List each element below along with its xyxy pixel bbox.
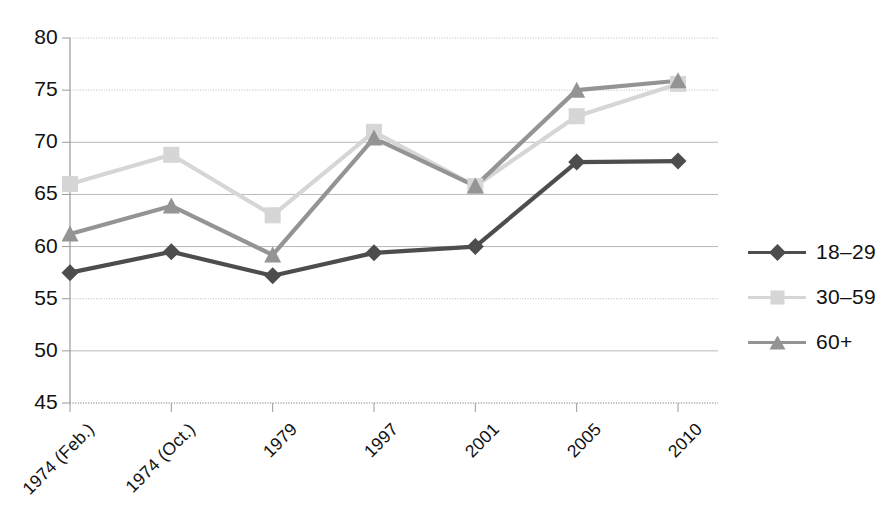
series-markers bbox=[62, 72, 687, 284]
diamond-marker-icon bbox=[769, 244, 786, 261]
data-point-marker bbox=[569, 108, 585, 124]
gridlines bbox=[70, 38, 718, 403]
square-marker-icon bbox=[769, 289, 786, 306]
y-tick-label: 55 bbox=[12, 286, 58, 310]
y-tick-label: 75 bbox=[12, 77, 58, 101]
data-point-marker bbox=[62, 176, 78, 192]
y-tick-label: 45 bbox=[12, 390, 58, 414]
triangle-marker-icon bbox=[769, 334, 786, 351]
y-tick-label: 80 bbox=[12, 25, 58, 49]
legend-key-60-plus bbox=[748, 331, 806, 353]
data-point-marker bbox=[163, 243, 180, 260]
legend-key-30-59 bbox=[748, 286, 806, 308]
y-tick-label: 60 bbox=[12, 234, 58, 258]
data-point-marker bbox=[265, 207, 281, 223]
data-point-marker bbox=[163, 147, 179, 163]
y-tick-label: 65 bbox=[12, 181, 58, 205]
series-line-30–59 bbox=[70, 84, 678, 215]
data-point-marker bbox=[670, 153, 687, 170]
y-tick-label: 50 bbox=[12, 338, 58, 362]
x-tick-marks bbox=[70, 403, 678, 412]
axis-lines bbox=[70, 38, 718, 403]
legend-item-18-29: 18–29 bbox=[748, 232, 896, 272]
data-point-marker bbox=[264, 267, 281, 284]
chart-container: 8075706560555045 1974 (Feb.)1974 (Oct.)1… bbox=[0, 0, 896, 526]
legend-label-18-29: 18–29 bbox=[816, 240, 876, 264]
legend-label-60-plus: 60+ bbox=[816, 330, 853, 354]
legend-key-18-29 bbox=[748, 241, 806, 263]
legend-item-60-plus: 60+ bbox=[748, 322, 896, 362]
legend-label-30-59: 30–59 bbox=[816, 285, 876, 309]
series-line-60+ bbox=[70, 81, 678, 255]
data-point-marker bbox=[62, 264, 79, 281]
y-tick-marks bbox=[62, 38, 70, 403]
legend-item-30-59: 30–59 bbox=[748, 277, 896, 317]
y-tick-label: 70 bbox=[12, 129, 58, 153]
chart-legend: 18–29 30–59 60+ bbox=[748, 232, 896, 367]
